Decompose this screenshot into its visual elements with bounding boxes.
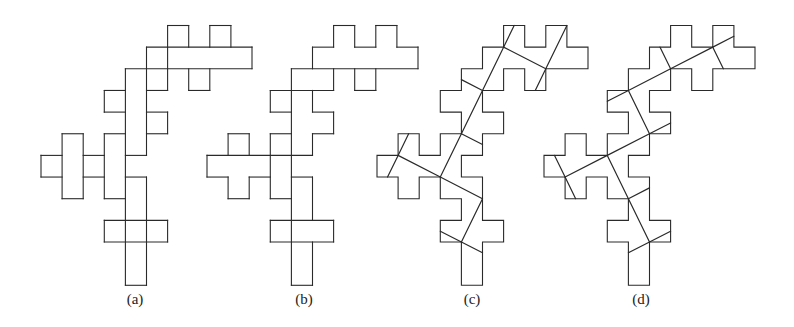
- diagonal-line: [461, 199, 482, 242]
- diagonal-line: [504, 47, 546, 69]
- panel-d-outline-with-diagonals: [544, 26, 755, 286]
- diagonal-line: [628, 90, 649, 133]
- panel-label-b: (b): [295, 291, 313, 308]
- diagonal-line: [660, 47, 671, 69]
- diagonal-line: [628, 188, 649, 199]
- panel-label-a: (a): [127, 291, 144, 308]
- panel-label-d: (d): [632, 291, 650, 308]
- panel-label-c: (c): [464, 291, 481, 308]
- figure-canvas: [0, 0, 794, 327]
- diagonal-line: [461, 80, 482, 91]
- diagonal-line: [713, 47, 724, 69]
- diagonal-line: [535, 26, 567, 91]
- shape-outline: [544, 26, 755, 286]
- diagonal-line: [565, 123, 671, 177]
- diagonal-line: [461, 134, 482, 145]
- diagonal-line: [440, 26, 514, 178]
